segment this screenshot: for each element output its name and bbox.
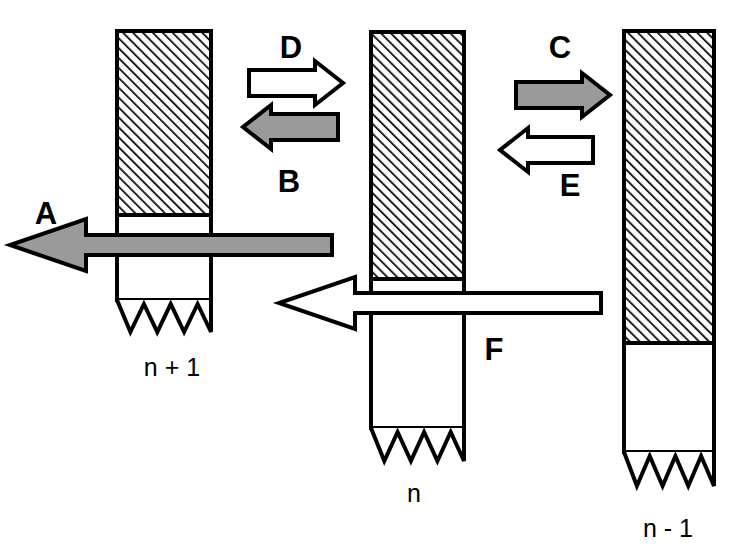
column-n-plus-1 (117, 31, 211, 332)
arrow-c-label: C (549, 30, 571, 65)
arrow-f-label: F (485, 332, 504, 367)
arrow-b-label: B (278, 164, 300, 199)
column-white-section (117, 215, 211, 300)
column-hatched-section (624, 31, 714, 343)
column-n-minus-1-label: n - 1 (643, 514, 693, 542)
arrow-a-label: A (35, 196, 57, 231)
diagram-canvas: n + 1nn - 1DBCEAF (0, 0, 730, 555)
column-hatched-section (117, 31, 211, 215)
column-n-plus-1-label: n + 1 (144, 353, 200, 381)
arrow-e-label: E (560, 168, 581, 203)
diagram-background (0, 0, 730, 555)
column-n-label: n (407, 479, 421, 507)
dislocation-pileup-diagram: n + 1nn - 1DBCEAF (0, 0, 730, 555)
column-white-section (624, 343, 714, 452)
column-hatched-section (371, 32, 464, 279)
column-n (371, 32, 464, 461)
column-n-minus-1 (624, 31, 714, 486)
arrow-d-label: D (280, 30, 302, 65)
